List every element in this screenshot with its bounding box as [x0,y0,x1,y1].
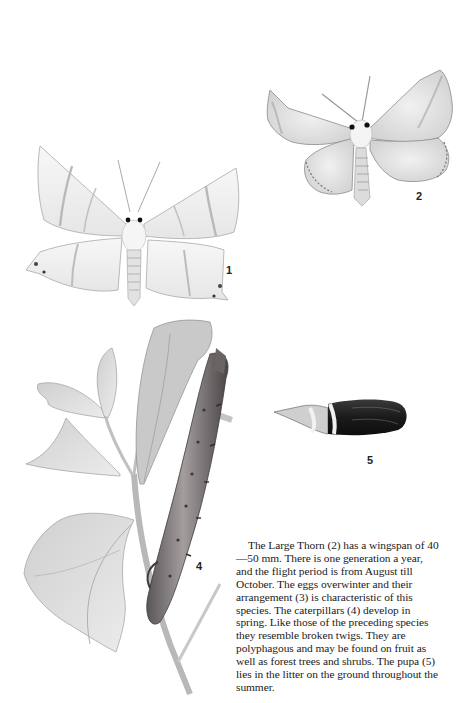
moth-adult-pale-thorn-icon [22,140,244,310]
moth-adult-large-thorn-icon [248,30,463,210]
figure-label-5: 5 [367,454,373,466]
caption-text-block: The Large Thorn (2) has a wingspan of 40… [236,539,441,694]
caption-paragraph: The Large Thorn (2) has a wingspan of 40… [236,539,441,694]
figure-1-moth: 1 [22,140,244,310]
figure-2-large-thorn-moth: 2 [248,30,463,210]
figure-label-4: 4 [196,560,202,572]
caterpillar-on-twig-icon [20,314,250,703]
figure-label-2: 2 [416,190,422,202]
figure-label-1: 1 [226,264,232,276]
figure-4-caterpillar-on-twig: 4 [20,314,250,703]
pupa-icon [272,398,412,438]
figure-5-pupa: 5 [272,398,412,438]
